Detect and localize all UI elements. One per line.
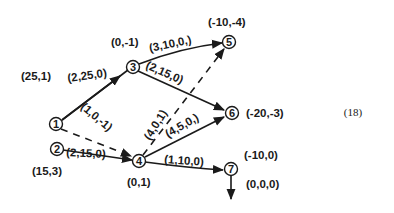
- edge-7-out-label: (0,0,0): [246, 178, 279, 190]
- svg-text:5: 5: [226, 36, 232, 48]
- svg-text:4: 4: [136, 155, 143, 167]
- edge-2-4-label: (2,15,0): [66, 146, 106, 160]
- edge-4-6-label: (4,5,0,): [163, 111, 201, 140]
- node-1: 1: [50, 118, 63, 131]
- node-7-annotation: (-10,0): [244, 149, 278, 161]
- node-3: 3: [127, 61, 140, 74]
- edge-3-5-label: (3,10,0,): [148, 33, 193, 54]
- edge-1-3-label: (2,25,0): [67, 67, 108, 84]
- svg-text:3: 3: [130, 61, 136, 73]
- node-7: 7: [225, 163, 238, 176]
- svg-text:1: 1: [53, 118, 59, 130]
- equation-number: (18): [344, 106, 363, 119]
- network-flow-diagram: 1 2 3 4 5 6 7 (25,1) (15,3) (0,-1) (0,1)…: [0, 0, 394, 213]
- node-3-annotation: (0,-1): [111, 36, 139, 48]
- node-2-annotation: (15,3): [32, 165, 62, 177]
- node-2: 2: [51, 143, 64, 156]
- node-4-annotation: (0,1): [127, 176, 151, 188]
- svg-text:2: 2: [54, 143, 60, 155]
- edge-3-6-label: (2,15,0): [144, 59, 185, 86]
- svg-text:6: 6: [229, 107, 235, 119]
- node-5-annotation: (-10,-4): [208, 16, 246, 28]
- edge-1-4-label: (1,0,-1): [79, 100, 115, 133]
- node-5: 5: [223, 36, 236, 49]
- node-6: 6: [226, 107, 239, 120]
- node-6-annotation: (-20,-3): [246, 107, 284, 119]
- node-4: 4: [133, 155, 146, 168]
- edge-4-5-label: (4,0,1): [142, 107, 170, 142]
- svg-text:7: 7: [228, 163, 234, 175]
- node-1-annotation: (25,1): [21, 70, 51, 82]
